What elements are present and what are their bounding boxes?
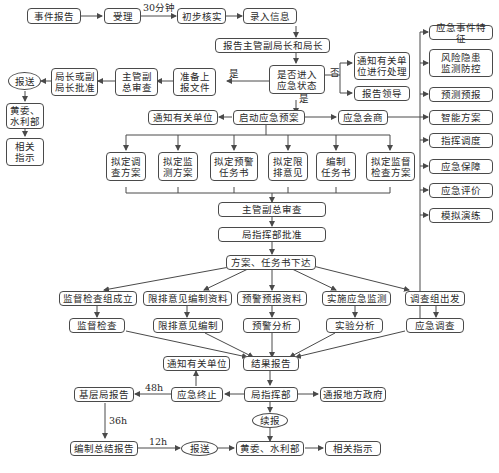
task-warning-materials: 预警预报资料 [237,291,307,306]
node-emergency-consult: 应急会商 [338,110,388,125]
action-emergency-investigation: 应急调查 [406,318,464,333]
node-preliminary-check: 初步核实 [177,8,226,24]
label-yes-down: 是 [299,94,309,104]
side-item-forecast: 预测预报 [429,87,493,102]
node-emergency-end: 应急终止 [171,387,223,402]
node-launch-plan: 启动应急预案 [233,110,305,125]
node-record-info: 录入信息 [243,8,297,24]
side-item-smart-plan: 智能方案 [429,110,493,125]
node-summary-report: 编制总结报告 [70,441,138,456]
node-notify-handle: 通知有关单 位进行处理 [354,52,410,80]
label-no: 否 [330,68,340,78]
plan-compile-task: 编制 任务书 [316,152,356,181]
side-item-event-features: 应急事件特征 [429,25,493,40]
side-item-simulation-drill: 模拟演练 [429,208,493,223]
node-result-report: 结果报告 [243,356,299,371]
node-continue-report: 续报 [252,413,288,428]
side-item-emergency-evaluation: 应急评价 [429,183,493,198]
task-discharge-materials: 限排意见编制资料 [143,291,232,306]
node-deputy-review-1: 主管副 总审查 [115,68,158,96]
node-submit-1: 报送 [8,72,41,90]
task-investigation-team: 调查组出发 [405,291,465,306]
node-yellow-water-1: 黄委、 水利部 [6,103,44,129]
node-event-report: 事件报告 [27,8,81,24]
plan-discharge-limit: 拟定限 排意见 [268,152,308,181]
node-director-approve: 局长或副 局长批准 [51,68,98,96]
node-hq-approve: 局指挥部批准 [218,227,326,242]
node-report-chief: 报告主管副局长和局长 [215,38,330,53]
task-supervision-group: 监督检查组成立 [59,291,137,306]
action-warning-analysis: 预警分析 [243,318,300,333]
node-prepare-docs: 准备上 报文件 [173,68,216,96]
label-36h: 36h [109,416,127,426]
node-yellow-water-2: 黄委、水利部 [236,441,304,456]
plan-monitoring: 拟定监 测方案 [158,152,198,181]
label-thirty-min: 30分钟 [143,3,175,13]
label-48h: 48h [145,383,163,393]
node-notify-units-1: 通知有关单位 [148,110,218,125]
node-base-report: 基层局报告 [74,387,134,402]
emergency-response-flowchart: 事件报告 受理 30分钟 初步核实 录入信息 报告主管副局长和局长 是否进入 应… [0,0,499,473]
node-report-leader: 报告领导 [354,86,410,101]
node-notify-gov: 通报地方政府 [320,387,386,402]
node-accept: 受理 [104,8,141,24]
plan-supervision: 拟定监督 检查方案 [366,152,415,181]
node-deputy-review-2: 主管副总审查 [218,202,326,217]
node-hq: 局指挥部 [244,387,298,402]
side-item-command-dispatch: 指挥调度 [429,133,493,148]
action-discharge-compile: 限排意见编制 [153,318,223,333]
node-instructions-1: 相关 指示 [6,138,44,166]
action-supervision: 监督检查 [69,318,125,333]
node-submit-2: 报送 [181,441,218,456]
label-yes-left: 是 [229,69,239,79]
task-emergency-monitoring: 实施应急监测 [322,291,391,306]
node-issue-tasks: 方案、任务书下达 [226,255,316,270]
label-12h: 12h [149,437,167,447]
action-lab-analysis: 实验分析 [326,318,383,333]
side-item-emergency-support: 应急保障 [429,159,493,174]
plan-warning-task: 拟定预警 任务书 [210,152,258,181]
node-notify-units-2: 通知有关单位 [163,356,230,371]
plan-investigation: 拟定调 查方案 [106,152,146,181]
side-item-risk-monitoring: 风险隐患 监测防控 [429,49,493,77]
node-enter-emergency: 是否进入 应急状态 [269,65,325,94]
node-instructions-2: 相关指示 [325,441,381,456]
